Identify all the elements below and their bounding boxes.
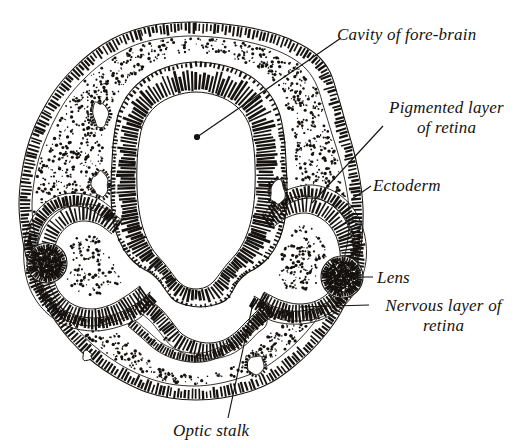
label-pigmented-layer-of-retina: Pigmented layer of retina: [381, 98, 512, 138]
specimen-drawing: [19, 22, 367, 400]
label-nervous-layer-of-retina: Nervous layer of retina: [369, 296, 518, 336]
label-cavity-of-forebrain: Cavity of fore-brain: [337, 25, 476, 45]
histology-plate: [0, 0, 518, 447]
label-optic-stalk: Optic stalk: [173, 421, 249, 441]
anatomical-figure: Cavity of fore-brain Pigmented layer of …: [0, 0, 518, 447]
label-nervous-layer-line2: retina: [423, 316, 464, 335]
label-nervous-layer-line1: Nervous layer of: [385, 296, 502, 315]
label-pigmented-layer-line2: of retina: [417, 118, 476, 137]
label-lens: Lens: [377, 268, 410, 288]
label-ectoderm: Ectoderm: [373, 176, 441, 196]
label-pigmented-layer-line1: Pigmented layer: [389, 98, 504, 117]
